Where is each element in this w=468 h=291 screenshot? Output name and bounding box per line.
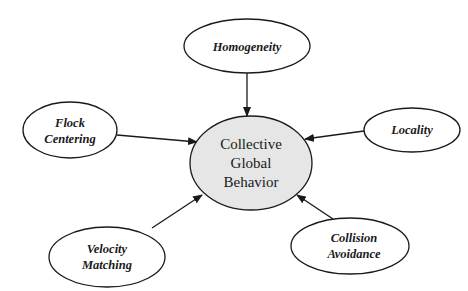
node-homogeneity: Homogeneity: [184, 19, 310, 73]
edge-collision-avoidance: [297, 195, 333, 219]
node-collective-global-behavior: Collective Global Behavior: [190, 116, 312, 210]
center-line1: Collective: [220, 136, 282, 152]
center-line3: Behavior: [224, 174, 279, 190]
node-collision-avoidance-line1: Collision: [331, 231, 378, 245]
node-homogeneity-label: Homogeneity: [212, 40, 282, 54]
node-velocity-matching: Velocity Matching: [49, 227, 165, 287]
edge-locality: [305, 131, 364, 139]
edge-flock-centering: [117, 135, 197, 142]
node-flock-centering-line1: Flock: [54, 116, 86, 130]
diagram-canvas: Homogeneity Flock Centering Locality Vel…: [0, 0, 468, 291]
node-collision-avoidance: Collision Avoidance: [291, 218, 409, 274]
node-flock-centering: Flock Centering: [23, 102, 117, 158]
node-velocity-matching-line1: Velocity: [87, 242, 128, 256]
node-velocity-matching-line2: Matching: [81, 258, 132, 272]
node-collision-avoidance-line2: Avoidance: [326, 247, 381, 261]
node-locality: Locality: [364, 108, 460, 152]
center-line2: Global: [231, 155, 272, 171]
node-locality-label: Locality: [390, 123, 433, 137]
node-flock-centering-line2: Centering: [44, 132, 95, 146]
edge-velocity-matching: [152, 195, 202, 228]
